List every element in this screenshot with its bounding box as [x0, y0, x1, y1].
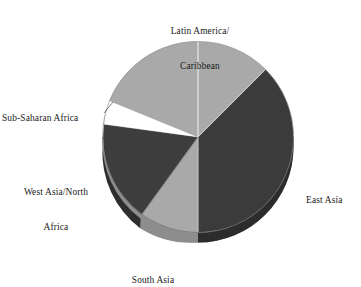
pie-label-south-asia: South Asia [110, 252, 196, 287]
pie-label-west-asia-line2: Africa [4, 222, 108, 234]
pie-label-latin-line2: Caribbean [140, 61, 260, 73]
pie-label-sub-saharan-africa: Sub-Saharan Africa [2, 90, 118, 148]
pie-label-south-asia-text: South Asia [110, 275, 196, 287]
pie-label-sub-saharan-text: Sub-Saharan Africa [2, 113, 118, 125]
pie-label-latin-line1: Latin America/ [140, 26, 260, 38]
pie-label-east-asia-text: East Asia [306, 195, 361, 207]
pie-label-latin-america-caribbean: Latin America/ Caribbean [140, 3, 260, 95]
pie-label-west-asia-north-africa: West Asia/North Africa [4, 164, 108, 256]
pie-label-east-asia: East Asia [306, 172, 361, 230]
pie-label-west-asia-line1: West Asia/North [4, 187, 108, 199]
